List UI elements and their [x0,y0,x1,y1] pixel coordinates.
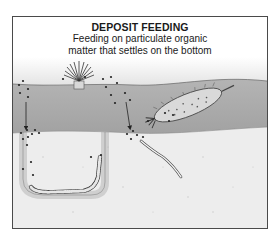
seafloor-illustration [13,17,267,228]
diagram-frame: DEPOSIT FEEDING Feeding on particulate o… [12,16,268,229]
subsurface-sediment [13,127,267,228]
